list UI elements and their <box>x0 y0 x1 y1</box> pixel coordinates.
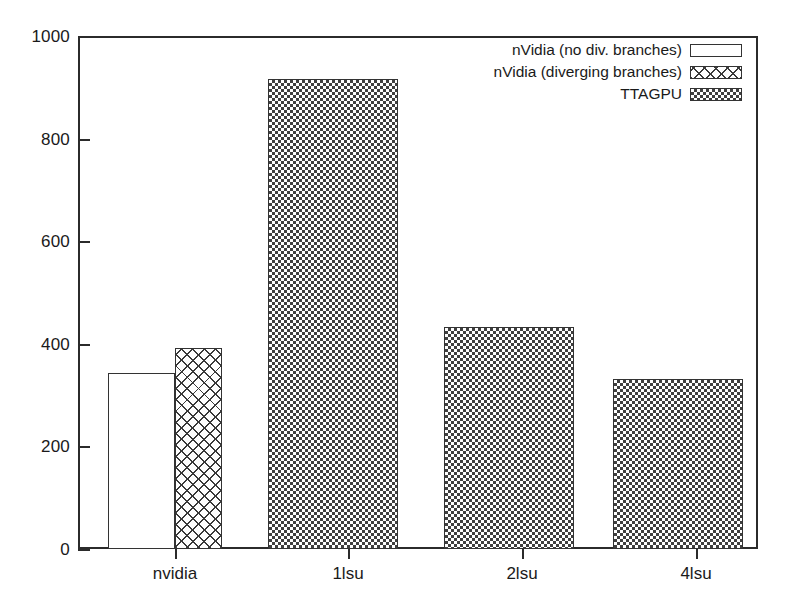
y-axis-tick <box>78 241 90 243</box>
bar-2lsu-checker <box>444 327 574 549</box>
x-axis-tick <box>348 549 350 559</box>
y-axis-label: 200 <box>41 438 70 455</box>
legend-label: nVidia (no div. branches) <box>512 42 682 58</box>
y-axis-tick <box>78 36 90 38</box>
x-axis-label: 4lsu <box>680 565 711 582</box>
x-axis-tick <box>175 549 177 559</box>
chart-legend: nVidia (no div. branches)nVidia (divergi… <box>470 40 742 106</box>
bar-1lsu-checker <box>268 79 398 549</box>
x-axis-tick <box>696 549 698 559</box>
x-axis-label: 1lsu <box>332 565 363 582</box>
legend-entry: nVidia (diverging branches) <box>470 62 742 82</box>
y-axis-label: 0 <box>60 541 70 558</box>
y-axis-label: 800 <box>41 131 70 148</box>
legend-label: nVidia (diverging branches) <box>494 64 682 80</box>
bar-4lsu-checker <box>613 379 743 549</box>
x-axis-label: nvidia <box>153 565 197 582</box>
y-axis-tick <box>78 446 90 448</box>
y-axis-label: 1000 <box>31 28 70 45</box>
bar-nvidia-crosshatch <box>175 348 222 549</box>
y-axis-tick <box>78 139 90 141</box>
bar-nvidia-empty <box>108 373 175 549</box>
legend-entry: TTAGPU <box>470 84 742 104</box>
legend-swatch-checker <box>690 88 742 101</box>
y-axis-label: 600 <box>41 233 70 250</box>
x-axis-label: 2lsu <box>506 565 537 582</box>
legend-entry: nVidia (no div. branches) <box>470 40 742 60</box>
y-axis-tick <box>78 344 90 346</box>
bar-chart: 02004006008001000 nvidia1lsu2lsu4lsu nVi… <box>0 0 799 606</box>
legend-label: TTAGPU <box>620 86 682 102</box>
y-axis-label: 400 <box>41 336 70 353</box>
legend-swatch-crosshatch <box>690 66 742 79</box>
y-axis-tick <box>78 549 90 551</box>
legend-swatch-empty <box>690 44 742 57</box>
x-axis-tick <box>522 549 524 559</box>
